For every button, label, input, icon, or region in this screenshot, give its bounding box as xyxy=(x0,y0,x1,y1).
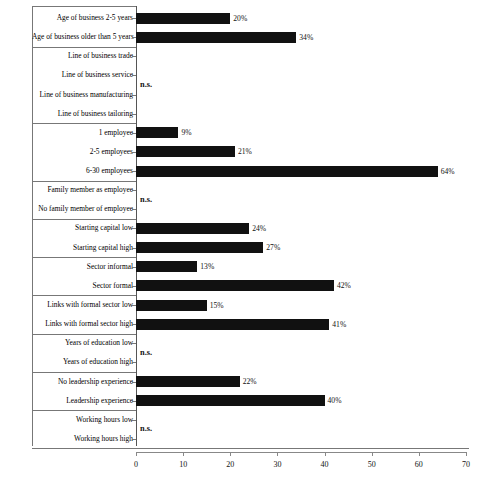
bar-value-label: 22% xyxy=(243,376,257,387)
category-label: 1 employee xyxy=(32,128,136,138)
plot-area: Age of business 2-5 years20%Age of busin… xyxy=(0,0,477,488)
y-axis-tick xyxy=(132,420,136,421)
y-axis-tick xyxy=(132,75,136,76)
bar-value-label: 42% xyxy=(337,280,351,291)
category-label-text: Sector formal xyxy=(32,281,136,291)
category-label: Line of business trade xyxy=(32,51,136,61)
category-label: Age of business older than 5 years xyxy=(32,32,136,42)
category-label: Line of business manufacturing xyxy=(32,90,136,100)
category-label-text: Links with formal sector high xyxy=(32,319,136,329)
category-label-text: Working hours high xyxy=(32,434,136,444)
category-label: Years of education high xyxy=(32,357,136,367)
category-label-text: Line of business trade xyxy=(32,51,136,61)
bar-value-label: 13% xyxy=(200,261,214,272)
bar-value-label: 24% xyxy=(252,223,266,234)
y-axis-tick xyxy=(132,190,136,191)
y-axis-tick xyxy=(132,362,136,363)
x-axis-line xyxy=(136,452,466,453)
category-label-text: Line of business service xyxy=(32,70,136,80)
x-axis-tick-label: 0 xyxy=(134,460,138,470)
group-separator xyxy=(32,372,136,373)
bar xyxy=(136,376,240,387)
x-axis-tick xyxy=(372,452,373,456)
group-separator xyxy=(32,295,136,296)
y-axis-tick xyxy=(132,209,136,210)
x-axis-tick-label: 40 xyxy=(321,460,329,470)
bar xyxy=(136,127,178,138)
bar xyxy=(136,166,438,177)
bar-value-label: 15% xyxy=(210,300,224,311)
x-axis-tick-label: 50 xyxy=(368,460,376,470)
category-label: Working hours low xyxy=(32,415,136,425)
category-label: Links with formal sector low xyxy=(32,300,136,310)
bar xyxy=(136,319,329,330)
category-label: Starting capital high xyxy=(32,243,136,253)
category-label: Line of business tailoring xyxy=(32,109,136,119)
category-label: Years of education low xyxy=(32,338,136,348)
bar-value-label: 20% xyxy=(233,13,247,24)
category-label-text: Starting capital high xyxy=(32,243,136,253)
category-label-text: 2-5 employees xyxy=(32,147,136,157)
category-label: Sector formal xyxy=(32,281,136,291)
category-label-text: Years of education high xyxy=(32,357,136,367)
category-label: Links with formal sector high xyxy=(32,319,136,329)
y-axis-tick xyxy=(132,95,136,96)
y-axis-tick xyxy=(132,114,136,115)
not-significant-label: n.s. xyxy=(140,195,152,205)
bar xyxy=(136,32,296,43)
not-significant-label: n.s. xyxy=(140,80,152,90)
group-separator xyxy=(32,334,136,335)
bar-value-label: 40% xyxy=(328,395,342,406)
category-label: Line of business service xyxy=(32,70,136,80)
bar xyxy=(136,395,325,406)
category-label-text: 1 employee xyxy=(32,128,136,138)
category-label: 2-5 employees xyxy=(32,147,136,157)
x-axis-tick xyxy=(183,452,184,456)
x-axis-tick xyxy=(466,452,467,456)
bar xyxy=(136,300,207,311)
x-axis-tick xyxy=(325,452,326,456)
chart-figure: Age of business 2-5 years20%Age of busin… xyxy=(0,0,477,488)
category-label: Leadership experience xyxy=(32,396,136,406)
bar-value-label: 41% xyxy=(332,319,346,330)
x-axis-tick xyxy=(277,452,278,456)
not-significant-label: n.s. xyxy=(140,424,152,434)
x-axis-tick-label: 30 xyxy=(273,460,281,470)
category-label: Starting capital low xyxy=(32,223,136,233)
bar xyxy=(136,223,249,234)
group-separator xyxy=(32,257,136,258)
category-label: No family member of employee xyxy=(32,204,136,214)
category-label-text: Line of business manufacturing xyxy=(32,90,136,100)
y-axis-tick xyxy=(132,56,136,57)
group-separator xyxy=(32,219,136,220)
category-label: No leadership experience xyxy=(32,377,136,387)
x-axis-tick-label: 70 xyxy=(462,460,470,470)
group-separator xyxy=(32,410,136,411)
bar xyxy=(136,280,334,291)
bar-value-label: 27% xyxy=(266,242,280,253)
group-separator xyxy=(32,123,136,124)
category-label-text: Family member as employee xyxy=(32,185,136,195)
bar-value-label: 9% xyxy=(181,127,191,138)
category-label: Working hours high xyxy=(32,434,136,444)
group-separator xyxy=(32,47,136,48)
category-label-text: No family member of employee xyxy=(32,204,136,214)
bar-value-label: 64% xyxy=(441,166,455,177)
category-label-text: Links with formal sector low xyxy=(32,300,136,310)
bar xyxy=(136,13,230,24)
category-label: Family member as employee xyxy=(32,185,136,195)
category-label: Age of business 2-5 years xyxy=(32,13,136,23)
category-label-text: Age of business 2-5 years xyxy=(32,13,136,23)
category-label-text: Line of business tailoring xyxy=(32,109,136,119)
category-label: Sector informal xyxy=(32,262,136,272)
x-axis-tick-label: 10 xyxy=(179,460,187,470)
bar xyxy=(136,242,263,253)
x-axis-tick xyxy=(230,452,231,456)
x-axis-tick xyxy=(419,452,420,456)
category-label-text: No leadership experience xyxy=(32,377,136,387)
category-label-text: Leadership experience xyxy=(32,396,136,406)
y-axis-tick xyxy=(132,439,136,440)
category-label-text: Starting capital low xyxy=(32,223,136,233)
x-axis-tick-label: 20 xyxy=(226,460,234,470)
bar xyxy=(136,261,197,272)
